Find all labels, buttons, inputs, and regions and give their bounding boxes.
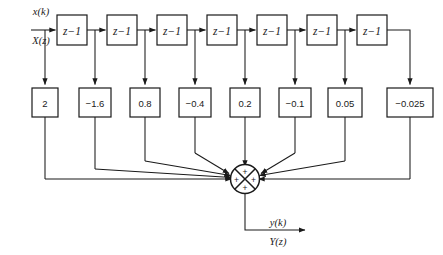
left-converging-lines — [45, 153, 232, 179]
coefficient-label: 0.2 — [238, 98, 251, 109]
output-label-time: y(k) — [269, 217, 287, 229]
delay-block-label: z−1 — [212, 25, 231, 37]
coefficient-label: −1.6 — [86, 98, 105, 109]
coefficient-block-1[interactable]: 2 — [32, 88, 58, 117]
delay-block-6[interactable]: z−1 — [307, 15, 337, 45]
input-label-time: x(k) — [32, 6, 50, 18]
delay-block-label: z−1 — [262, 25, 281, 37]
delay-block-4[interactable]: z−1 — [207, 15, 237, 45]
delay-block-5[interactable]: z−1 — [257, 15, 287, 45]
delay-block-label: z−1 — [112, 25, 131, 37]
coefficient-label: −0.4 — [186, 98, 205, 109]
delay-block-2[interactable]: z−1 — [107, 15, 137, 45]
summing-sign-left: + — [234, 175, 239, 185]
coefficient-block-group: 2 −1.6 0.8 −0.4 0.2 −0.1 — [32, 88, 433, 117]
delay-block-3[interactable]: z−1 — [157, 15, 187, 45]
coefficient-label: −0.1 — [286, 98, 305, 109]
coefficient-block-8[interactable]: −0.025 — [387, 88, 433, 117]
delay-block-1[interactable]: z−1 — [57, 15, 87, 45]
coefficient-block-7[interactable]: 0.05 — [328, 88, 362, 117]
delay-block-label: z−1 — [312, 25, 331, 37]
summing-sign-top: + — [243, 167, 248, 177]
coefficient-label: 0.8 — [138, 98, 151, 109]
summing-junction[interactable]: + + + + — [231, 165, 260, 194]
delay-block-label: z−1 — [362, 25, 381, 37]
input-label-ztransform: X(z) — [31, 35, 50, 47]
coefficient-block-5[interactable]: 0.2 — [230, 88, 260, 117]
summing-sign-right: + — [251, 175, 256, 185]
output-label-ztransform: Y(z) — [270, 236, 287, 248]
coefficient-block-2[interactable]: −1.6 — [79, 88, 111, 117]
coefficient-block-3[interactable]: 0.8 — [130, 88, 160, 117]
coefficient-label: 2 — [42, 98, 47, 109]
summing-sign-bottom: + — [243, 183, 248, 193]
signal-flow-diagram: z−1 z−1 z−1 z−1 z−1 z−1 — [0, 0, 443, 255]
right-converging-lines — [259, 153, 411, 179]
delay-block-group: z−1 z−1 z−1 z−1 z−1 z−1 — [57, 15, 387, 45]
delay-block-label: z−1 — [162, 25, 181, 37]
coefficient-block-6[interactable]: −0.1 — [279, 88, 311, 117]
delay-block-label: z−1 — [62, 25, 81, 37]
diagram-canvas: z−1 z−1 z−1 z−1 z−1 z−1 — [0, 0, 443, 255]
coefficient-label: −0.025 — [395, 98, 424, 109]
coefficient-label: 0.05 — [336, 98, 355, 109]
coefficient-block-4[interactable]: −0.4 — [179, 88, 211, 117]
delay-block-7[interactable]: z−1 — [357, 15, 387, 45]
